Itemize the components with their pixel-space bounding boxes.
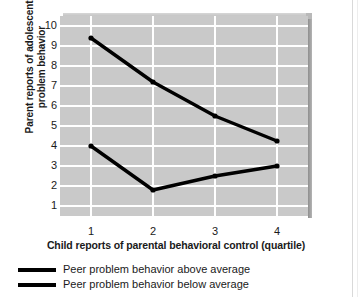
- plot-area: [60, 16, 308, 216]
- line-chart: Parent reports of adolescent problem beh…: [0, 0, 352, 297]
- x-axis-title: Child reports of parental behavioral con…: [0, 239, 352, 251]
- legend-item-label: Peer problem behavior above average: [63, 263, 250, 276]
- x-axis-tick-mark: [276, 219, 278, 224]
- y-axis-tick-label: 2: [1, 180, 57, 191]
- plot-frame: [60, 13, 312, 218]
- data-point: [274, 138, 279, 143]
- x-axis-tick-mark: [90, 219, 92, 224]
- data-point: [88, 143, 93, 148]
- legend-line-swatch: [18, 283, 56, 287]
- x-axis-tick-label: 4: [262, 225, 292, 237]
- data-point: [150, 79, 155, 84]
- legend-item-label: Peer problem behavior below average: [63, 278, 249, 291]
- y-axis-tick-label: 9: [1, 40, 57, 51]
- x-axis-tick-mark: [214, 219, 216, 224]
- y-axis-tick-label: 1: [1, 200, 57, 211]
- data-point: [88, 35, 93, 40]
- y-axis-tick-label: 4: [1, 140, 57, 151]
- plot-bevel-right: [308, 13, 312, 218]
- chart-figure-root: Parent reports of adolescent problem beh…: [0, 0, 360, 297]
- page-edge-line-secondary: [357, 0, 358, 297]
- chart-legend: Peer problem behavior above averagePeer …: [18, 262, 348, 292]
- data-point: [150, 187, 155, 192]
- y-axis-tick-label: 7: [1, 80, 57, 91]
- data-point: [212, 113, 217, 118]
- data-point: [212, 173, 217, 178]
- series-line-2: [91, 146, 277, 190]
- series-layer: [60, 16, 308, 216]
- y-axis-tick-label: 5: [1, 120, 57, 131]
- page-edge-line: [352, 0, 353, 297]
- x-axis-tick-mark: [152, 219, 154, 224]
- y-axis-tick-label: 6: [1, 100, 57, 111]
- x-axis-tick-labels: 1234: [60, 219, 312, 239]
- legend-item: Peer problem behavior above average: [18, 262, 348, 277]
- data-point: [274, 163, 279, 168]
- y-axis-tick-label: 8: [1, 60, 57, 71]
- y-axis-tick-label: 3: [1, 160, 57, 171]
- x-axis-tick-label: 2: [138, 225, 168, 237]
- y-axis-tick-labels: 10987654321: [0, 13, 57, 218]
- x-axis-tick-label: 3: [200, 225, 230, 237]
- legend-item: Peer problem behavior below average: [18, 277, 348, 292]
- x-axis-tick-label: 1: [76, 225, 106, 237]
- legend-line-swatch: [18, 268, 56, 272]
- y-axis-tick-label: 10: [1, 20, 57, 31]
- series-line-1: [91, 38, 277, 141]
